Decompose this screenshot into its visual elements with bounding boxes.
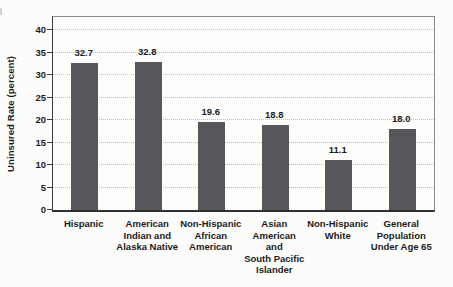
y-tick-label-25: 25 [0, 92, 46, 104]
bar-non-hispanic-african-american [198, 122, 225, 210]
gridline-10 [53, 164, 434, 165]
bar-value-label-4: 11.1 [313, 144, 363, 156]
y-tick-mark-30 [47, 74, 52, 75]
gridline-35 [53, 52, 434, 53]
y-tick-label-30: 30 [0, 69, 46, 81]
gridline-40 [53, 29, 434, 30]
bar-value-label-1: 32.8 [122, 46, 172, 58]
gridline-15 [53, 142, 434, 143]
bar-value-label-0: 32.7 [59, 47, 109, 59]
y-tick-label-35: 35 [0, 47, 46, 59]
bar-asian-american-and-south-pacific-islander [262, 125, 289, 210]
scan-edge-artifact [0, 8, 2, 15]
y-tick-mark-40 [47, 29, 52, 30]
bar-hispanic [71, 63, 98, 210]
bar-general-population-under-age-65 [389, 129, 416, 210]
bar-american-indian-and-alaska-native [135, 62, 162, 210]
y-tick-label-40: 40 [0, 24, 46, 36]
uninsured-rate-bar-chart: Uninsured Rate (percent) 051015202530354… [0, 0, 453, 287]
y-tick-label-5: 5 [0, 182, 46, 194]
gridline-5 [53, 187, 434, 188]
y-tick-mark-25 [47, 97, 52, 98]
y-tick-label-0: 0 [0, 204, 46, 216]
bar-value-label-2: 19.6 [186, 106, 236, 118]
y-tick-mark-10 [47, 164, 52, 165]
y-tick-label-10: 10 [0, 159, 46, 171]
bar-value-label-5: 18.0 [376, 113, 426, 125]
y-tick-mark-20 [47, 119, 52, 120]
y-tick-mark-5 [47, 187, 52, 188]
y-tick-label-20: 20 [0, 114, 46, 126]
y-tick-mark-35 [47, 52, 52, 53]
bar-non-hispanic-white [325, 160, 352, 210]
y-tick-mark-15 [47, 142, 52, 143]
bar-value-label-3: 18.8 [249, 109, 299, 121]
gridline-25 [53, 97, 434, 98]
y-tick-mark-0 [47, 209, 52, 210]
y-tick-label-15: 15 [0, 137, 46, 149]
gridline-30 [53, 74, 434, 75]
x-category-label-general-population-under-age-65: General Population Under Age 65 [361, 218, 441, 253]
